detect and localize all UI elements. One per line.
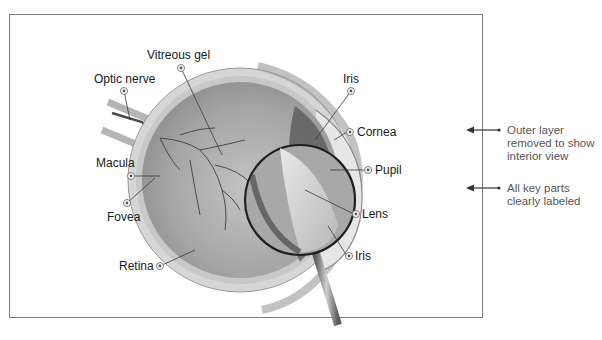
label-iris-bottom: Iris — [355, 249, 371, 263]
annotation-line: interior view — [507, 150, 595, 163]
annotation-line: clearly labeled — [507, 195, 581, 208]
annotation-line: All key parts — [507, 182, 581, 195]
label-cornea: Cornea — [357, 125, 396, 139]
label-pupil: Pupil — [375, 163, 402, 177]
label-retina: Retina — [119, 259, 154, 273]
annotation-line: Outer layer — [507, 124, 595, 137]
annotation-key-parts: All key parts clearly labeled — [507, 182, 581, 208]
label-vitreous-gel: Vitreous gel — [147, 48, 210, 62]
annotation-line: removed to show — [507, 137, 595, 150]
eye-illustration — [0, 0, 602, 340]
label-fovea: Fovea — [107, 210, 140, 224]
annotation-arrows — [468, 130, 498, 188]
label-optic-nerve: Optic nerve — [94, 72, 155, 86]
label-iris-top: Iris — [343, 72, 359, 86]
arrowheads — [466, 127, 501, 192]
label-macula: Macula — [96, 156, 135, 170]
label-lens: Lens — [362, 207, 388, 221]
annotation-outer-layer: Outer layer removed to show interior vie… — [507, 124, 595, 163]
